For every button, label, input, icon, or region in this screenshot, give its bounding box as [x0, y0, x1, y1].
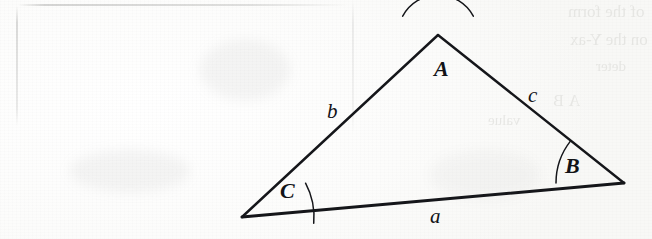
angle-arcs — [306, 0, 571, 223]
side-label-a: a — [430, 206, 441, 227]
angle-arc-A — [403, 0, 474, 16]
angle-label-C: C — [280, 180, 295, 202]
angle-label-A: A — [434, 58, 449, 80]
side-label-b: b — [327, 101, 338, 122]
angle-label-B: B — [565, 155, 580, 177]
side-label-c: c — [528, 85, 537, 106]
triangle-drawing — [0, 0, 652, 239]
side-b-line — [242, 35, 438, 217]
figure-page: of the form on the Y-ax deter A B value … — [0, 0, 652, 239]
angle-arc-C — [306, 183, 314, 223]
side-c-line — [438, 35, 624, 183]
triangle-outline — [242, 35, 624, 217]
